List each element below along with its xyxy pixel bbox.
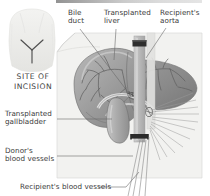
label-recipients-blood-vessels: Recipient's blood vessels [20, 183, 111, 191]
label-transplanted-gallbladder: Transplanted gallbladder [5, 110, 52, 127]
label-bile-duct: Bile duct [68, 9, 84, 26]
torso-incision-inset [9, 9, 55, 72]
label-donors-blood-vessels: Donor's blood vessels [5, 147, 54, 164]
label-transplanted-liver: Transplanted liver [104, 9, 151, 26]
label-recipients-aorta: Recipient's aorta [160, 9, 200, 26]
vascular-clamp-upper [133, 40, 147, 47]
liver-transplant-illustration [0, 0, 210, 196]
inset-caption-site-of-incision: SITE OF INCISION [2, 72, 64, 92]
